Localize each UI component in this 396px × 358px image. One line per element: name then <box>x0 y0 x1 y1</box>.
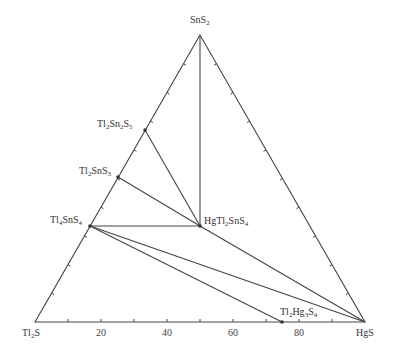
tie-line-tl2sns3-hgtl2sns4 <box>118 177 200 226</box>
tie-line-tl2sn2s5-hgtl2sns4 <box>145 130 200 226</box>
ternary-diagram <box>0 0 396 358</box>
axis-label-80: 80 <box>294 327 304 338</box>
compound-label-tl4sns4: Tl4SnS4 <box>50 214 82 227</box>
compound-label-tl2sn2s5: Tl2Sn2S5 <box>97 118 133 131</box>
compound-label-tl2hg3s4: Tl2Hg3S4 <box>280 306 317 319</box>
label-text: Tl <box>22 327 31 338</box>
vertex-label-sns2: SnS2 <box>190 14 210 27</box>
axis-label-40: 40 <box>162 327 172 338</box>
label-sub: 2 <box>206 19 210 27</box>
axis-label-60: 60 <box>228 327 238 338</box>
right-ticks <box>214 64 349 295</box>
label-text: S <box>34 327 40 338</box>
left-ticks <box>52 64 187 295</box>
point-hgtl2sns4 <box>198 224 202 228</box>
label-text: HgS <box>356 327 374 338</box>
axis-label-20: 20 <box>96 327 106 338</box>
compound-label-hgtl2sns4: HgTl2SnS4 <box>204 215 248 228</box>
tie-line-tl4sns4-hgs <box>90 226 365 322</box>
point-tl4sns4 <box>88 224 92 228</box>
label-text: SnS <box>190 14 206 25</box>
tie-line-tl4sns4-tl2hg3s4 <box>90 226 282 322</box>
point-tl2hg3s4 <box>280 320 284 324</box>
vertex-label-hgs: HgS <box>356 327 374 338</box>
compound-label-tl2sns3: Tl2SnS3 <box>79 165 111 178</box>
tie-lines <box>90 35 365 322</box>
vertex-label-tl2s: Tl2S <box>22 327 40 340</box>
point-tl2sns3 <box>116 175 120 179</box>
point-tl2sn2s5 <box>143 128 147 132</box>
